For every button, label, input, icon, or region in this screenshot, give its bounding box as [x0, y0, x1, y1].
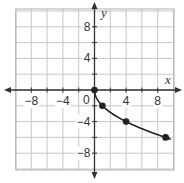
y-axis-up-arrow-icon: [92, 2, 98, 9]
data-point: [123, 118, 130, 125]
x-axis-label: x: [164, 72, 171, 87]
x-tick-label: 8: [154, 94, 161, 108]
x-axis-left-arrow-icon: [4, 87, 11, 93]
data-point: [91, 87, 98, 94]
x-tick-label: −4: [56, 94, 70, 108]
y-axis-down-arrow-icon: [92, 172, 98, 179]
origin-label: 0: [83, 93, 90, 107]
y-tick-label: 4: [84, 51, 91, 65]
data-point: [99, 103, 106, 110]
y-tick-label: −8: [77, 146, 91, 160]
y-tick-label: −4: [77, 115, 91, 129]
y-tick-label: 8: [84, 20, 91, 34]
y-axis-label: y: [99, 5, 107, 20]
x-tick-label: −8: [24, 94, 38, 108]
x-axis-right-arrow-icon: [175, 87, 182, 93]
function-graph: −8−44884−4−8 x y 0: [0, 0, 184, 183]
x-tick-label: 4: [123, 94, 130, 108]
